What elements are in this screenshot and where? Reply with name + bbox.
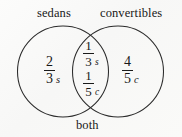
venn-diagram-figure: sedans convertibles both 2 3 s 1 3 s 1 5… xyxy=(0,0,182,137)
intersection-top-numerator: 1 xyxy=(84,39,93,52)
right-only-fraction: 4 5 xyxy=(122,55,133,87)
right-only-variable: c xyxy=(133,74,139,87)
intersection-bottom-variable: c xyxy=(94,87,99,99)
left-only-value: 2 3 s xyxy=(44,55,60,87)
intersection-top-fraction: 1 3 xyxy=(83,39,94,69)
right-circle-label: convertibles xyxy=(100,6,162,21)
right-only-numerator: 4 xyxy=(123,55,132,69)
left-only-fraction: 2 3 xyxy=(44,55,55,87)
intersection-top-denominator: 3 xyxy=(84,55,93,68)
intersection-top-value: 1 3 s xyxy=(83,39,99,69)
intersection-bottom-denominator: 5 xyxy=(84,85,93,98)
left-circle-label: sedans xyxy=(37,6,71,21)
intersection-bottom-value: 1 5 c xyxy=(83,69,99,99)
left-only-numerator: 2 xyxy=(45,55,54,69)
right-only-denominator: 5 xyxy=(123,72,132,86)
intersection-bottom-fraction: 1 5 xyxy=(83,69,94,99)
left-only-variable: s xyxy=(55,74,60,87)
intersection-top-variable: s xyxy=(94,57,99,69)
intersection-label: both xyxy=(76,118,99,133)
intersection-bottom-numerator: 1 xyxy=(84,69,93,82)
right-only-value: 4 5 c xyxy=(122,55,139,87)
left-only-denominator: 3 xyxy=(45,72,54,86)
